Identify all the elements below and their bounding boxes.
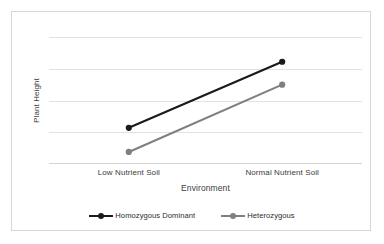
- x-tick-labels: Low Nutrient SoilNormal Nutrient Soil: [49, 168, 362, 180]
- y-axis-title: Plant Height: [29, 45, 43, 155]
- legend-marker-icon: [221, 212, 245, 220]
- legend-marker-icon: [89, 212, 113, 220]
- legend-item-1[interactable]: Heterozygous: [221, 211, 294, 220]
- series-layer: [49, 37, 362, 164]
- data-point: [126, 125, 132, 131]
- legend-item-0[interactable]: Homozygous Dominant: [89, 211, 195, 220]
- plot-area: [49, 37, 362, 164]
- x-tick-label: Low Nutrient Soil: [98, 168, 160, 177]
- chart-legend: Homozygous DominantHeterozygous: [12, 211, 372, 220]
- legend-dot: [98, 213, 104, 219]
- x-axis-title-label: Environment: [181, 183, 230, 193]
- data-point: [126, 149, 132, 155]
- data-point: [279, 82, 285, 88]
- y-axis-title-label: Plant Height: [32, 78, 41, 123]
- legend-label: Homozygous Dominant: [115, 211, 195, 220]
- chart-frame: Plant Height Low Nutrient SoilNormal Nut…: [11, 11, 371, 231]
- top-cutoff-strip: [0, 0, 384, 7]
- data-point: [279, 59, 285, 65]
- x-axis-title: Environment: [49, 183, 362, 193]
- legend-label: Heterozygous: [247, 211, 294, 220]
- x-tick-label: Normal Nutrient Soil: [245, 168, 319, 177]
- legend-dot: [230, 213, 236, 219]
